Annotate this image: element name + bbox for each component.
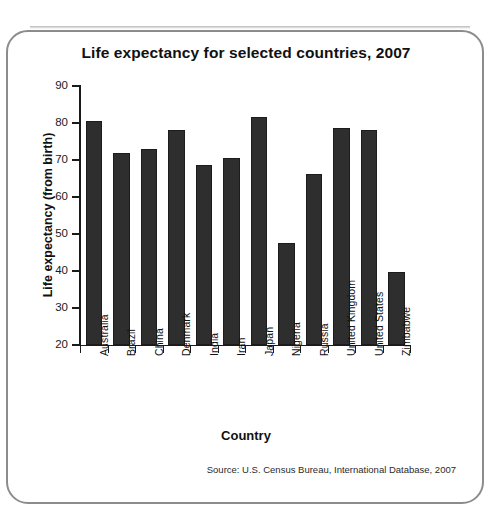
y-axis-tick xyxy=(72,344,79,345)
x-axis-category-label: India xyxy=(208,333,220,356)
x-axis-category-label: Japan xyxy=(263,327,275,356)
y-axis-tick-label: 60 xyxy=(40,191,68,203)
y-axis-tick xyxy=(72,233,79,234)
x-axis-category-label: Iran xyxy=(235,338,247,357)
bar xyxy=(306,174,323,345)
y-axis-tick xyxy=(72,196,79,197)
y-axis-tick-label: 80 xyxy=(40,117,68,129)
x-axis-tick xyxy=(80,346,81,353)
x-axis-category-label: Nigeria xyxy=(290,322,302,356)
x-axis-title: Country xyxy=(0,428,492,443)
y-axis-tick-label: 40 xyxy=(40,265,68,277)
bar xyxy=(251,117,268,345)
x-axis-category-label: China xyxy=(153,328,165,356)
y-axis-tick-label: 90 xyxy=(40,80,68,92)
x-axis-category-label: Zimbabwe xyxy=(400,307,412,356)
y-axis-tick-label: 50 xyxy=(40,228,68,240)
x-axis-category-label: Denmark xyxy=(180,313,192,356)
y-axis-tick xyxy=(72,270,79,271)
chart-title: Life expectancy for selected countries, … xyxy=(0,44,492,62)
y-axis-title: Life expectancy (from birth) xyxy=(41,95,55,335)
source-note: Source: U.S. Census Bureau, Internationa… xyxy=(0,464,492,475)
bar-chart: Life expectancy for selected countries, … xyxy=(0,0,492,510)
y-axis-tick-label: 20 xyxy=(40,339,68,351)
x-axis-category-label: United States xyxy=(373,292,385,356)
y-axis-line xyxy=(79,85,81,346)
x-axis-category-label: United Kingdom xyxy=(345,280,357,356)
bar xyxy=(141,149,158,345)
y-axis-tick-label: 70 xyxy=(40,154,68,166)
y-axis-tick-label: 30 xyxy=(40,302,68,314)
x-axis-category-label: Russia xyxy=(318,323,330,356)
y-axis-tick xyxy=(72,85,79,86)
y-axis-tick xyxy=(72,307,79,308)
bar xyxy=(86,121,103,345)
x-axis-category-label: Australia xyxy=(98,314,110,356)
bar xyxy=(223,158,240,345)
y-axis-tick xyxy=(72,122,79,123)
bar xyxy=(113,153,130,345)
x-axis-category-label: Brazil xyxy=(125,329,137,356)
y-axis-tick xyxy=(72,159,79,160)
bar xyxy=(196,165,213,345)
